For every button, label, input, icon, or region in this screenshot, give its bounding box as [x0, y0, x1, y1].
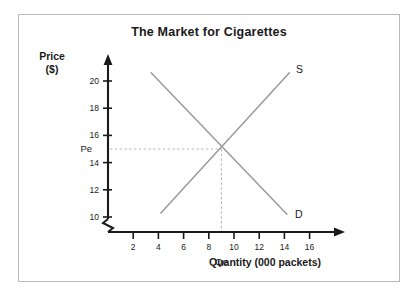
chart-title: The Market for Cigarettes — [131, 25, 287, 39]
x-tick-label-12: 12 — [254, 242, 264, 252]
x-tick-label-16: 16 — [305, 242, 315, 252]
x-tick-label-10: 10 — [229, 242, 239, 252]
supply-curve — [161, 73, 290, 213]
supply-demand-chart: The Market for Cigarettes Price ($) 10 1… — [0, 0, 418, 297]
x-tick-label-6: 6 — [181, 242, 186, 252]
demand-curve — [151, 73, 287, 215]
equilibrium-price-label: Pe — [80, 143, 92, 154]
x-tick-label-2: 2 — [131, 242, 136, 252]
y-tick-label-10: 10 — [90, 212, 100, 222]
figure-container: The Market for Cigarettes Price ($) 10 1… — [0, 0, 418, 297]
equilibrium-quantity-label: Qe — [215, 256, 228, 267]
y-tick-label-14: 14 — [90, 158, 100, 168]
y-tick-label-16: 16 — [90, 130, 100, 140]
y-tick-label-20: 20 — [90, 76, 100, 86]
x-tick-label-4: 4 — [156, 242, 161, 252]
y-tick-label-12: 12 — [90, 185, 100, 195]
supply-curve-label: S — [296, 63, 303, 75]
x-axis-arrowhead — [334, 228, 345, 237]
y-tick-label-18: 18 — [90, 103, 100, 113]
y-axis-title-line1: Price — [39, 50, 65, 62]
y-axis-break-icon — [103, 219, 113, 232]
y-axis-arrowhead — [104, 54, 113, 65]
demand-curve-label: D — [295, 208, 303, 220]
x-tick-label-14: 14 — [280, 242, 290, 252]
x-tick-label-8: 8 — [206, 242, 211, 252]
y-axis-title-line2: ($) — [46, 63, 59, 75]
